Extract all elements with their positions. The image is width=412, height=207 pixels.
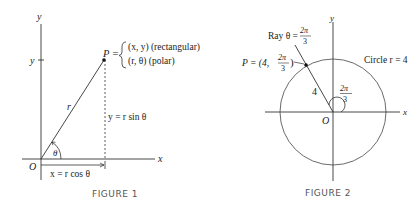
fig2-circle-label: Circle r = 4 xyxy=(364,55,408,65)
fig1-point-label: P = xyxy=(102,48,119,59)
fig1-caption: FIGURE 1 xyxy=(92,189,138,199)
fig2-point-leader xyxy=(294,62,304,64)
fig2-point-num: 2π xyxy=(278,53,287,62)
fig1-angle-label: θ xyxy=(53,148,58,158)
fig2-angle-num: 2π xyxy=(340,84,349,93)
fig2-point-label: P = (4, xyxy=(241,58,269,69)
fig2-point-close: ) xyxy=(290,56,294,69)
fig2-point-den: 3 xyxy=(281,64,285,73)
fig1-origin-label: O xyxy=(29,161,36,172)
fig1-horizontal-label: x = r cos θ xyxy=(50,169,90,179)
fig2-ray-num: 2π xyxy=(300,26,309,35)
polar-coordinates-figures: y x y O r y = r sin θ θ x = r cos θ P = … xyxy=(0,0,412,207)
fig2-point-p xyxy=(304,63,308,67)
fig2-ray-den: 3 xyxy=(303,37,307,46)
fig2-ray-label: Ray θ = xyxy=(268,31,298,41)
brace-icon xyxy=(119,42,126,68)
fig2-radius-label: 4 xyxy=(312,86,317,97)
fig2-caption: FIGURE 2 xyxy=(305,188,351,198)
fig1-y-tick-label: y xyxy=(29,55,35,66)
fig2-origin-label: O xyxy=(322,115,329,126)
fig1-rect-label: (x, y) (rectangular) xyxy=(128,42,200,53)
fig2-y-axis-label: y xyxy=(329,13,334,23)
fig2-x-axis-label: x xyxy=(402,107,407,117)
fig1-radius-line xyxy=(41,60,104,159)
fig1-x-axis-label: x xyxy=(157,153,163,164)
fig1-vertical-label: y = r sin θ xyxy=(108,112,147,122)
fig1-radius-label: r xyxy=(67,101,71,112)
fig2-ray xyxy=(295,45,333,112)
fig1-polar-label: (r, θ) (polar) xyxy=(128,56,175,67)
fig2-angle-den: 3 xyxy=(343,95,347,104)
